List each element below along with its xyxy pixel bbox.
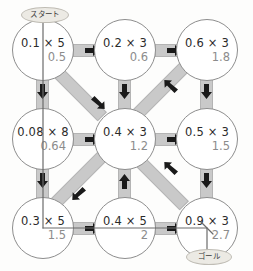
node-r2c0-result: 1.5 [48,228,66,242]
arrow-r0c0-r1c0-down [35,84,49,98]
node-r1c0-result: 0.64 [40,139,66,153]
arrow-r0c2-r1c2-down [199,84,213,98]
start-label: スタート [21,7,69,23]
node-r0c1-expression: 0.2 × 3 [95,36,155,50]
node-r2c1-result: 2 [141,228,148,242]
node-r2c0-expression: 0.3 × 5 [13,214,73,228]
arrow-r1c1-r0c2-up-right [163,78,177,92]
node-r0c1[interactable]: 0.2 × 3 0.6 [94,19,156,81]
node-r1c0-expression: 0.08 × 8 [13,125,73,139]
arrow-r1c0-r2c0-down [35,173,49,187]
node-r1c2-result: 1.5 [212,139,230,153]
node-r2c1-expression: 0.4 × 5 [95,214,155,228]
node-r1c0[interactable]: 0.08 × 8 0.64 [12,108,74,170]
node-r0c2-expression: 0.6 × 3 [177,36,237,50]
goal-label-text: ゴール [198,252,220,261]
node-r2c1[interactable]: 0.4 × 5 2 [94,197,156,259]
node-r2c2-expression: 0.9 × 3 [177,214,237,228]
node-r1c2-expression: 0.5 × 3 [177,125,237,139]
goal-label: ゴール [186,249,232,265]
start-label-text: スタート [30,10,59,19]
node-r2c2-result: 2.7 [212,228,230,242]
arrow-r2c1-r1c2-up-right [163,160,177,174]
node-r1c1-result: 1.2 [130,139,148,153]
node-r0c0[interactable]: 0.1 × 5 0.5 [12,19,74,81]
arrow-r0c0-r1c1-down-right [90,95,104,109]
diagram-canvas: 0.1 × 5 0.5 0.2 × 3 0.6 0.6 × 3 1.8 0.08… [0,0,253,271]
node-r1c1-expression: 0.4 × 3 [95,125,155,139]
node-r0c1-result: 0.6 [130,50,148,64]
node-r0c0-expression: 0.1 × 5 [13,36,73,50]
node-r1c1[interactable]: 0.4 × 3 1.2 [94,108,156,170]
arrow-r1c1-r2c0-down-left [71,186,85,200]
node-r0c2-result: 1.8 [212,50,230,64]
arrow-r1c2-r2c2-down [199,173,213,187]
node-r0c2[interactable]: 0.6 × 3 1.8 [176,19,238,81]
node-r0c0-result: 0.5 [48,50,66,64]
arrow-r2c1-r1c1-up [117,173,131,187]
arrow-r0c1-r1c1-down [117,84,131,98]
node-r1c2[interactable]: 0.5 × 3 1.5 [176,108,238,170]
node-r2c0[interactable]: 0.3 × 5 1.5 [12,197,74,259]
